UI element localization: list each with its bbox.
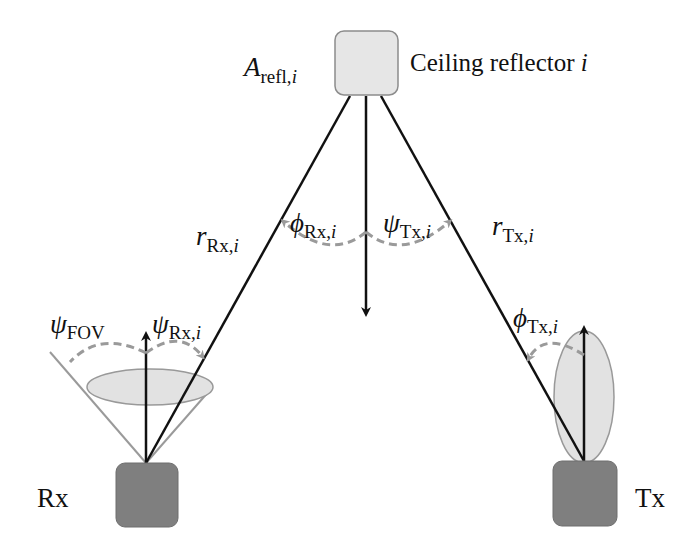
rx-fov-left-line xyxy=(50,352,146,463)
r-rx-label: rRx,i xyxy=(196,221,239,256)
tx-label: Tx xyxy=(635,483,665,513)
psi-rx-label: ψRx,i xyxy=(152,309,201,343)
rx-device xyxy=(116,463,178,527)
ceiling-reflector xyxy=(335,31,398,95)
reflector-area-label: Arefl,i xyxy=(242,52,297,87)
phi-rx-label: ϕRx,i xyxy=(290,208,336,242)
psi-fov-arc xyxy=(70,343,146,362)
psi-rx-arc xyxy=(146,341,202,356)
ceiling-reflector-label: Ceiling reflector i xyxy=(410,49,588,76)
tx-device xyxy=(553,461,617,526)
psi-fov-label: ψFOV xyxy=(50,309,105,343)
diagram-canvas: Arefl,i Ceiling reflector i rRx,i rTx,i … xyxy=(0,0,698,555)
rx-label: Rx xyxy=(37,483,69,513)
psi-tx-label: ψTx,i xyxy=(383,208,431,242)
reflector-tx-line xyxy=(381,96,584,461)
phi-tx-label: ϕTx,i xyxy=(513,303,558,337)
r-tx-label: rTx,i xyxy=(492,211,534,246)
rx-reflector-line xyxy=(146,96,350,463)
